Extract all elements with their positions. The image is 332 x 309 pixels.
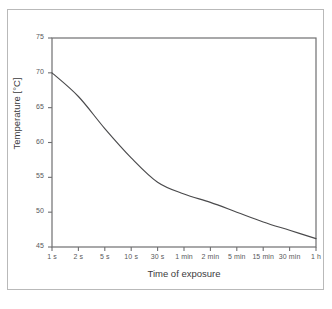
y-axis-tick-label: 55 bbox=[18, 172, 44, 179]
plot-frame bbox=[52, 38, 316, 247]
y-axis-tick-label: 75 bbox=[18, 33, 44, 40]
y-axis-tick-label: 70 bbox=[18, 68, 44, 75]
chart-figure: 45505560657075 1 s2 s5 s10 s30 s1 min2 m… bbox=[0, 0, 332, 309]
y-axis-tick-label: 50 bbox=[18, 207, 44, 214]
x-axis-tick-label: 1 h bbox=[296, 253, 332, 260]
y-axis-tick-label: 60 bbox=[18, 138, 44, 145]
y-axis-tick-label: 65 bbox=[18, 103, 44, 110]
chart-plot-area bbox=[0, 0, 332, 309]
y-axis-title: Temperature [°C] bbox=[11, 54, 22, 174]
y-axis-tick-label: 45 bbox=[18, 242, 44, 249]
x-axis-ticks bbox=[52, 247, 316, 251]
x-axis-title: Time of exposure bbox=[52, 268, 316, 279]
temperature-curve bbox=[52, 73, 316, 239]
